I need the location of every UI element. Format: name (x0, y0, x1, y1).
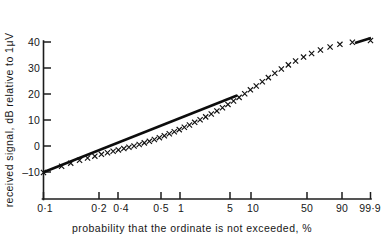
data-point (172, 129, 177, 134)
data-point (242, 91, 247, 96)
data-point (214, 108, 219, 113)
figure-container: 40 30 20 10 0 –10 0·1 0·2 0·4 0·5 1 (0, 0, 386, 242)
data-point (167, 131, 172, 136)
x-tick-label: 50 (301, 202, 313, 214)
x-axis-title: probability that the ordinate is not exc… (72, 222, 312, 234)
data-point (279, 66, 284, 71)
data-point (203, 114, 208, 119)
x-tick-label: 0·1 (37, 202, 53, 214)
x-tick-label: 10 (247, 202, 259, 214)
x-tick-label: 5 (227, 202, 233, 214)
probability-plot: 40 30 20 10 0 –10 0·1 0·2 0·4 0·5 1 (0, 0, 386, 242)
y-tick-label: 10 (28, 114, 40, 126)
data-point (225, 102, 230, 107)
data-point (99, 152, 104, 157)
data-point (220, 105, 225, 110)
data-point (266, 75, 271, 80)
y-axis-tick-labels: 40 30 20 10 0 –10 (22, 36, 40, 178)
data-point (286, 62, 291, 67)
data-point (85, 155, 90, 160)
data-point (131, 143, 136, 148)
data-point (309, 51, 314, 56)
data-point (231, 98, 236, 103)
x-tick-label: 0·4 (113, 202, 129, 214)
data-point (121, 146, 126, 151)
data-point (293, 58, 298, 63)
y-axis-ticks (44, 42, 51, 172)
data-point (92, 154, 97, 159)
data-point (301, 54, 306, 59)
y-tick-label: 20 (28, 88, 40, 100)
data-point (152, 137, 157, 142)
data-point (182, 125, 187, 130)
data-point (192, 120, 197, 125)
data-point (126, 145, 131, 150)
data-point (162, 133, 167, 138)
data-point (142, 140, 147, 145)
data-point (197, 117, 202, 122)
data-point (248, 87, 253, 92)
data-point (105, 150, 110, 155)
x-tick-label: 1 (178, 202, 184, 214)
data-point (272, 71, 277, 76)
data-point (237, 95, 242, 100)
x-tick-label: 90 (336, 202, 348, 214)
data-point (254, 83, 259, 88)
data-point (209, 111, 214, 116)
data-point (147, 139, 152, 144)
x-tick-label: 0·5 (153, 202, 169, 214)
y-tick-label: –10 (22, 166, 40, 178)
x-tick-label: 0·2 (91, 202, 107, 214)
data-point (327, 44, 332, 49)
data-point (350, 40, 355, 45)
y-tick-label: 40 (28, 36, 40, 48)
data-point (260, 79, 265, 84)
data-point (137, 142, 142, 147)
data-point (318, 47, 323, 52)
data-point (177, 127, 182, 132)
x-tick-label: 99·9 (359, 202, 380, 214)
y-axis-title: received signal, dB relative to 1μV (3, 33, 15, 208)
y-tick-label: 0 (34, 140, 40, 152)
x-axis-ticks (44, 192, 371, 199)
data-point (337, 42, 342, 47)
data-point (111, 149, 116, 154)
data-point (187, 122, 192, 127)
data-point (116, 147, 121, 152)
y-tick-label: 30 (28, 62, 40, 74)
data-point (157, 135, 162, 140)
x-axis-tick-labels: 0·1 0·2 0·4 0·5 1 5 10 50 90 99·9 (37, 202, 381, 214)
